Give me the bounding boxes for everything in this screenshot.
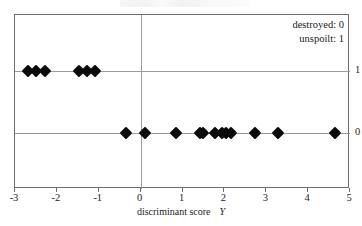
legend-entry-destroyed: destroyed: 0	[292, 18, 344, 32]
x-zero-axis-line	[141, 15, 142, 189]
x-tick-label: 2	[221, 192, 226, 203]
x-axis-title: discriminant scoreY	[0, 206, 362, 217]
x-tick-label: 3	[263, 192, 268, 203]
data-point	[272, 127, 285, 140]
data-point	[328, 127, 341, 140]
x-tick-label: 4	[305, 192, 310, 203]
data-point	[89, 65, 102, 78]
data-point	[39, 65, 52, 78]
x-tick-label: 1	[179, 192, 184, 203]
x-axis-title-text: discriminant score	[137, 206, 211, 217]
legend: destroyed: 0 unspoilt: 1	[292, 18, 344, 46]
data-point	[170, 127, 183, 140]
gridline-y0	[15, 133, 350, 134]
x-tick-label: -2	[52, 192, 61, 203]
x-tick-label: -3	[10, 192, 19, 203]
x-tick-label: -1	[93, 192, 102, 203]
data-point	[249, 127, 262, 140]
chart-figure: destroyed: 0 unspoilt: 1 10 -3-2-1012345…	[0, 0, 362, 226]
x-axis-variable-symbol: Y	[220, 206, 226, 217]
cropped-title-remnant	[120, 0, 250, 7]
y-tick-label-1: 1	[355, 65, 360, 75]
data-point	[120, 127, 133, 140]
y-tick-label-0: 0	[355, 127, 360, 137]
x-tick-label: 0	[137, 192, 142, 203]
gridline-y1	[15, 71, 350, 72]
legend-entry-unspoilt: unspoilt: 1	[292, 32, 344, 46]
x-tick-label: 5	[346, 192, 351, 203]
